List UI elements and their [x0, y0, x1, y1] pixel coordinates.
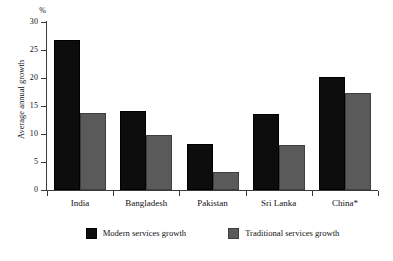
y-axis-tick-label: 15	[14, 102, 38, 110]
bar-group	[120, 22, 172, 190]
bar-traditional	[80, 113, 106, 190]
x-axis-category-label: China*	[312, 198, 378, 208]
x-axis-tick	[246, 191, 247, 196]
x-axis-category-label: Pakistan	[179, 198, 245, 208]
y-axis-title: Average annual growth	[17, 35, 26, 165]
bar-traditional	[213, 172, 239, 190]
grouped-bar-chart: % Average annual growth 051015202530 Ind…	[0, 0, 393, 261]
y-axis-tick-label: 30	[14, 18, 38, 26]
x-axis-tick	[113, 191, 114, 196]
legend-item-traditional: Traditional services growth	[228, 228, 339, 239]
y-axis-tick-label: 0	[14, 186, 38, 194]
bar-group	[253, 22, 305, 190]
bar-group	[54, 22, 106, 190]
bar-modern	[319, 77, 345, 190]
x-axis-category-label: Sri Lanka	[246, 198, 312, 208]
legend-label-modern: Modern services growth	[103, 229, 187, 238]
y-axis-tick-label: 10	[14, 130, 38, 138]
x-axis-category-label: Bangladesh	[113, 198, 179, 208]
y-axis-tick-label: 20	[14, 74, 38, 82]
chart-legend: Modern services growth Traditional servi…	[47, 228, 378, 239]
y-axis-tick-label: 5	[14, 158, 38, 166]
y-axis-unit-label: %	[30, 7, 46, 15]
bar-group	[319, 22, 371, 190]
legend-swatch-traditional-icon	[228, 228, 239, 239]
y-axis-tick-label: 25	[14, 46, 38, 54]
bar-traditional	[279, 145, 305, 190]
x-axis-tick	[378, 191, 379, 196]
x-axis-category-label: India	[47, 198, 113, 208]
bar-modern	[120, 111, 146, 190]
plot-area	[47, 22, 378, 190]
bar-modern	[54, 40, 80, 190]
bar-traditional	[146, 135, 172, 190]
legend-label-traditional: Traditional services growth	[245, 229, 339, 238]
bar-group	[187, 22, 239, 190]
bar-modern	[253, 114, 279, 190]
x-axis-tick	[179, 191, 180, 196]
x-axis-tick	[312, 191, 313, 196]
legend-swatch-modern-icon	[86, 228, 97, 239]
bar-traditional	[345, 93, 371, 190]
bar-modern	[187, 144, 213, 190]
legend-item-modern: Modern services growth	[86, 228, 187, 239]
x-axis-tick	[47, 191, 48, 196]
x-axis-line	[46, 190, 378, 191]
